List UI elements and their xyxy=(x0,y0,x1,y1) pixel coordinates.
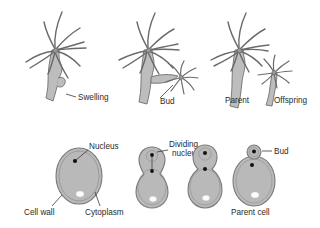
yeast-cell-wall-4 xyxy=(233,156,275,206)
hydra-swelling xyxy=(57,77,65,87)
label-parent-cell: Parent cell xyxy=(231,208,270,217)
yeast-nucleus-3 xyxy=(203,167,207,171)
yeast-bud-nucleus-4 xyxy=(252,150,256,154)
yeast-bud-nucleus-3 xyxy=(203,151,207,155)
yeast-bud-nucleus-2 xyxy=(150,153,154,157)
hydra-hypostome-1 xyxy=(53,48,57,52)
diagram-canvas: Swelling xyxy=(0,0,320,228)
label-cell-wall: Cell wall xyxy=(24,208,55,217)
yeast-vacuole-4 xyxy=(251,192,259,198)
label-offspring-hydra: Offspring xyxy=(274,96,308,105)
yeast-stage-3 xyxy=(188,145,222,208)
label-cytoplasm: Cytoplasm xyxy=(85,208,124,217)
label-swelling: Swelling xyxy=(78,93,109,102)
label-dividing-nucleus-line1: Dividing xyxy=(169,140,199,149)
yeast-vacuole-1 xyxy=(76,191,84,197)
label-nucleus: Nucleus xyxy=(89,142,119,151)
label-parent-hydra: Parent xyxy=(225,96,250,105)
yeast-vacuole-2 xyxy=(149,196,156,202)
hydra-bud-head xyxy=(179,76,183,80)
hydra-hypostome-2 xyxy=(146,48,150,52)
budding-diagram: Swelling xyxy=(0,0,320,228)
hydra-offspring-head xyxy=(272,71,276,75)
yeast-nucleus-4 xyxy=(250,163,254,167)
label-bud-yeast: Bud xyxy=(274,147,289,156)
yeast-vacuole-3 xyxy=(202,195,209,201)
yeast-nucleus-2 xyxy=(150,169,154,173)
hydra-hypostome-parent xyxy=(237,48,241,52)
label-bud-hydra: Bud xyxy=(160,97,175,106)
